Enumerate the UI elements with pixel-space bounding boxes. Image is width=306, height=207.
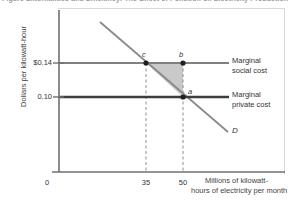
- x-tick-label-35: 35: [135, 178, 157, 187]
- x-axis-title-line1: Millions of kilowatt-: [205, 176, 268, 185]
- data-point-a: [180, 94, 185, 99]
- chart-plot-area: Dollars per kilowatt-hour Millions of ki…: [0, 0, 306, 207]
- msc-label-line2: social cost: [232, 66, 267, 75]
- data-point-b: [180, 60, 185, 65]
- y-axis-title: Dollars per kilowatt-hour: [19, 0, 28, 137]
- x-axis-title: Millions of kilowatt- hours of electrici…: [205, 176, 306, 196]
- origin-label: 0: [40, 178, 54, 187]
- point-label-a: a: [188, 87, 192, 96]
- y-tick-label-1: 0.10: [8, 92, 52, 101]
- data-point-c: [143, 60, 148, 65]
- deadweight-loss-triangle: [146, 63, 183, 97]
- y-tick-label-0: $0.14: [8, 58, 52, 67]
- demand-curve-label: D: [232, 126, 238, 135]
- point-label-b: b: [179, 50, 183, 59]
- marginal-social-cost-label: Marginal social cost: [232, 56, 267, 75]
- mpc-label-line1: Marginal: [232, 90, 261, 99]
- marginal-private-cost-label: Marginal private cost: [232, 90, 270, 109]
- x-tick-label-50: 50: [172, 178, 194, 187]
- demand-curve: [100, 22, 228, 132]
- msc-label-line1: Marginal: [232, 56, 261, 65]
- x-axis-title-line2: hours of electricity per month: [191, 186, 306, 196]
- point-label-c: c: [142, 50, 146, 59]
- mpc-label-line2: private cost: [232, 100, 270, 109]
